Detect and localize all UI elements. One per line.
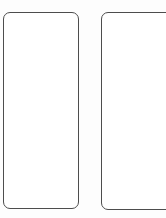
card-right-content bbox=[102, 13, 166, 209]
card-left[interactable] bbox=[3, 12, 79, 209]
card-right[interactable] bbox=[101, 12, 166, 210]
card-left-content bbox=[4, 13, 78, 208]
canvas bbox=[0, 0, 166, 218]
